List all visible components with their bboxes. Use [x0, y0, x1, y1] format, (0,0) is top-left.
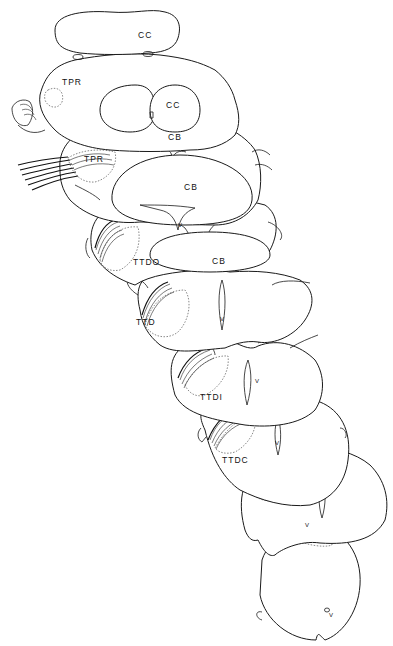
label-ttdc: TTDC — [222, 455, 249, 465]
label-v-section-8: V — [305, 522, 309, 528]
label-tpr-section-3: TPR — [84, 154, 104, 164]
label-v-section-5: V — [220, 316, 224, 322]
label-v-section-7: V — [275, 440, 279, 446]
label-v-section-9: V — [329, 612, 333, 618]
section-2-cc — [100, 85, 200, 132]
section-5 — [127, 269, 312, 351]
label-cc-section-2: CC — [166, 100, 180, 110]
label-ttdo: TTDO — [133, 257, 160, 267]
section-4-cb — [150, 232, 270, 272]
label-cb-section-3: CB — [168, 132, 182, 142]
brain-sections-figure: CC TPR CC CB TPR CB V TTDO CB V TTD V TT… — [0, 0, 393, 646]
label-cc-section-1: CC — [138, 30, 152, 40]
label-ttd: TTD — [136, 317, 156, 327]
label-cb-section-5: CB — [212, 256, 226, 266]
label-v-section-4: V — [178, 222, 182, 228]
label-tpr-section-2: TPR — [62, 77, 82, 87]
label-cb-section-4: CB — [184, 182, 198, 192]
label-v-section-6: V — [255, 378, 259, 384]
label-ttdi: TTDI — [200, 392, 223, 402]
section-1 — [55, 11, 179, 60]
